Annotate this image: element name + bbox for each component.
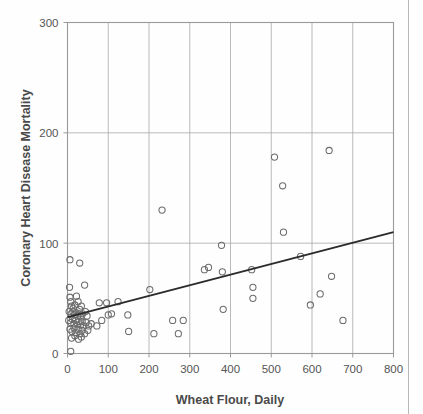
chart-figure: 0100200300400500600700800 0100200300 Whe…	[0, 0, 423, 414]
x-tick-label: 800	[384, 363, 403, 375]
page-edge-line	[408, 0, 409, 414]
y-tick-label: 100	[39, 238, 58, 250]
y-tick-label: 300	[39, 17, 58, 29]
x-tick-label: 500	[262, 363, 281, 375]
y-tick-label: 0	[52, 348, 58, 360]
chart-background	[0, 0, 423, 414]
y-tick-label: 200	[39, 127, 58, 139]
x-tick-label: 700	[343, 363, 362, 375]
x-tick-label: 100	[99, 363, 118, 375]
y-axis-label: Coronary Heart Disease Mortality	[19, 89, 33, 286]
x-axis-label: Wheat Flour, Daily	[176, 393, 284, 407]
scatter-plot: 0100200300400500600700800 0100200300 Whe…	[0, 0, 423, 414]
x-tick-label: 300	[180, 363, 199, 375]
x-tick-label: 600	[302, 363, 321, 375]
x-tick-label: 400	[221, 363, 240, 375]
x-tick-label: 0	[64, 363, 70, 375]
x-tick-label: 200	[139, 363, 158, 375]
